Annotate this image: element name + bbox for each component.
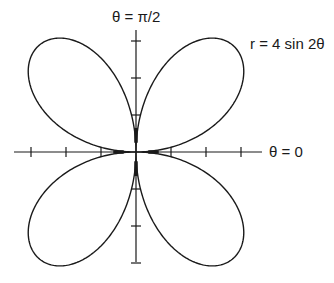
vertical-axis-label: θ = π/2 xyxy=(112,9,160,24)
polar-axis-label: θ = 0 xyxy=(269,144,303,159)
equation-label: r = 4 sin 2θ xyxy=(250,36,325,51)
axes xyxy=(14,30,262,262)
